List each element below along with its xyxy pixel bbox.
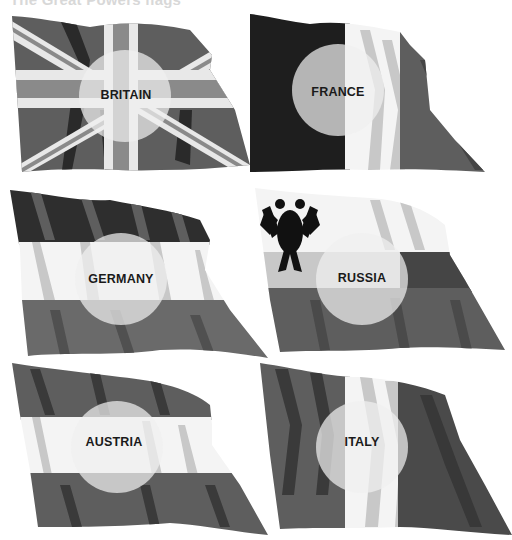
flag-austria: AUSTRIA xyxy=(0,355,270,540)
germany-circle xyxy=(0,180,270,360)
flag-label-russia: RUSSIA xyxy=(338,271,386,285)
flag-label-austria: AUSTRIA xyxy=(86,435,143,449)
flag-label-italy: ITALY xyxy=(344,435,379,449)
russia-circle xyxy=(250,180,512,360)
flag-france: FRANCE xyxy=(250,0,512,185)
flag-italy: ITALY xyxy=(250,355,512,540)
flag-label-france: FRANCE xyxy=(311,85,364,99)
italy-circle xyxy=(250,355,512,540)
flag-label-britain: BRITAIN xyxy=(100,88,151,102)
flag-russia: RUSSIA xyxy=(250,180,512,360)
france-circle xyxy=(250,0,512,185)
flag-germany: GERMANY xyxy=(0,180,270,360)
flag-label-germany: GERMANY xyxy=(88,272,153,286)
flag-britain: BRITAIN xyxy=(0,0,260,185)
